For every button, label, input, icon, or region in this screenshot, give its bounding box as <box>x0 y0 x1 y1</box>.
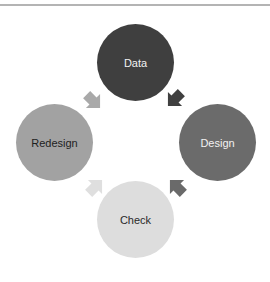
node-design: Design <box>179 104 256 181</box>
node-redesign: Redesign <box>16 104 93 181</box>
top-divider-line <box>0 4 270 6</box>
node-check: Check <box>97 181 174 258</box>
arrow-redesign-to-data-icon <box>82 90 104 112</box>
node-check-label: Check <box>120 214 151 226</box>
node-design-label: Design <box>200 137 234 149</box>
arrow-design-to-check-icon <box>166 176 188 198</box>
node-data-label: Data <box>124 57 147 69</box>
arrow-data-to-design-icon <box>164 88 186 110</box>
arrow-check-to-redesign-icon <box>84 176 106 198</box>
node-data: Data <box>97 24 174 101</box>
node-redesign-label: Redesign <box>31 137 77 149</box>
